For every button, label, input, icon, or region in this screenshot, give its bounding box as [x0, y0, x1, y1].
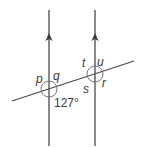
diagram-canvas: p q 127° t u s r: [0, 0, 143, 148]
angle-label-r: r: [102, 76, 107, 90]
angle-label-s: s: [83, 82, 89, 96]
angle-label-q: q: [53, 69, 60, 83]
transversal-line: [12, 61, 134, 101]
angle-label-p: p: [35, 72, 43, 86]
angle-label-127-degrees: 127°: [54, 96, 79, 110]
angle-label-t: t: [82, 56, 86, 70]
parallel-lines-transversal-diagram: p q 127° t u s r: [0, 0, 143, 148]
angle-label-u: u: [97, 55, 104, 69]
